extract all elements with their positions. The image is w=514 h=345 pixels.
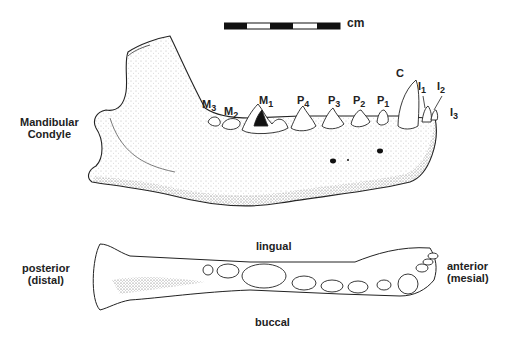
lingual-label: lingual — [256, 240, 291, 252]
mesial-label: (mesial) — [447, 272, 489, 284]
posterior-distal-label: posterior (distal) — [22, 262, 70, 286]
anterior-mesial-label: anterior (mesial) — [447, 260, 489, 284]
distal-label: (distal) — [22, 274, 70, 286]
posterior-label: posterior — [22, 262, 70, 274]
buccal-label: buccal — [255, 316, 290, 328]
leader-lines — [0, 0, 514, 345]
anterior-label: anterior — [447, 260, 489, 272]
